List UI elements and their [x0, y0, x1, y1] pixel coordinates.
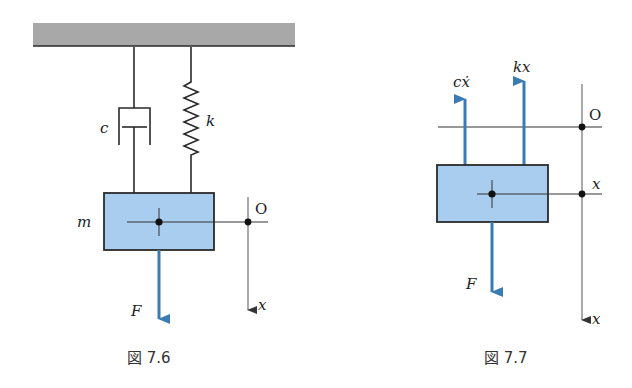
label-k: k [206, 112, 215, 130]
mass-center-dot [488, 190, 495, 197]
label-displacement: x [592, 175, 601, 193]
label-x-axis: x [258, 296, 267, 314]
label-force: F [130, 302, 142, 320]
label-damper-force: cẋ [453, 73, 470, 91]
figure-7-6: c k m O x F 図 7.6 [33, 23, 295, 367]
label-origin: O [589, 106, 601, 124]
damper [119, 47, 150, 193]
ceiling [33, 23, 295, 46]
mass-center-dot [155, 218, 162, 225]
diagram-canvas: c k m O x F 図 7.6 cẋ kx O x x F 図 7.7 [0, 0, 632, 388]
label-m: m [77, 213, 91, 231]
label-spring-force: kx [513, 58, 531, 76]
displacement-dot [579, 191, 586, 198]
figure-7-7: cẋ kx O x x F 図 7.7 [437, 58, 602, 367]
origin-dot [245, 219, 252, 226]
caption-fig-7-6: 図 7.6 [127, 349, 171, 367]
origin-dot [579, 124, 586, 131]
spring [184, 47, 198, 193]
label-force: F [465, 275, 477, 293]
label-x-axis: x [592, 310, 601, 328]
caption-fig-7-7: 図 7.7 [484, 349, 528, 367]
label-origin: O [255, 200, 267, 218]
label-c: c [100, 119, 109, 137]
